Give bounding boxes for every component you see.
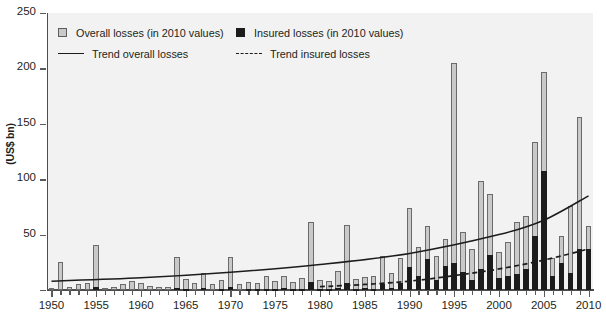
legend-dashed-line-icon [236,53,262,54]
x-tick-mark [383,290,384,295]
bar-overall-losses [111,287,117,290]
bar-insured-losses [487,255,493,290]
x-tick-label: 1980 [298,299,342,311]
bar-overall-losses [237,284,243,290]
bar-overall-losses [76,284,82,290]
y-tick-mark [40,13,46,14]
y-tick-label: 100 [0,171,36,183]
bar-insured-losses [451,263,457,290]
x-tick-mark [159,290,160,295]
x-tick-mark [141,290,142,297]
bar-overall-losses [147,286,153,290]
x-tick-mark [105,290,106,295]
bar-overall-losses [85,283,91,290]
legend-item-trend-insured: Trend insured losses [236,48,370,60]
x-tick-mark [392,290,393,295]
x-tick-mark [132,290,133,295]
bar-overall-losses [308,222,314,290]
chart-legend: Overall losses (in 2010 values) Insured … [58,24,403,62]
bar-overall-losses [58,262,64,290]
x-tick-mark [472,290,473,295]
bar-insured-losses [532,236,538,290]
x-tick-mark [275,290,276,297]
bar-insured-losses [559,263,565,290]
legend-item-overall: Overall losses (in 2010 values) [58,27,236,39]
bar-insured-losses [550,276,556,290]
bar-insured-losses [416,276,422,290]
x-tick-mark [562,290,563,295]
bar-insured-losses [281,288,287,290]
bar-insured-losses [264,289,270,291]
bar-insured-losses [496,278,502,290]
y-tick-label: 200 [0,60,36,72]
bar-insured-losses [407,267,413,290]
legend-label-overall: Overall losses (in 2010 values) [76,27,224,39]
x-tick-mark [463,290,464,295]
y-tick-mark [40,290,46,291]
bar-insured-losses [362,288,368,290]
bar-insured-losses [443,266,449,290]
bar-overall-losses [210,284,216,290]
bar-insured-losses [434,280,440,290]
x-tick-mark [508,290,509,295]
x-tick-label: 1950 [29,299,73,311]
x-tick-mark [580,290,581,295]
bar-insured-losses [523,269,529,290]
x-tick-mark [150,290,151,295]
x-tick-mark [51,290,52,297]
y-tick-mark [40,124,46,125]
x-tick-mark [338,290,339,295]
bar-insured-losses [577,249,583,290]
bar-insured-losses [174,288,180,290]
x-tick-mark [239,290,240,295]
bar-overall-losses [371,276,377,290]
bar-insured-losses [317,289,323,291]
bar-insured-losses [353,289,359,291]
x-tick-label: 1990 [388,299,432,311]
bar-overall-losses [67,287,73,290]
x-tick-mark [230,290,231,297]
bar-overall-losses [174,257,180,290]
x-tick-mark [553,290,554,295]
x-tick-mark [87,290,88,295]
bar-insured-losses [299,289,305,291]
x-tick-mark [195,290,196,295]
y-tick-mark [40,235,46,236]
legend-item-trend-overall: Trend overall losses [58,48,236,60]
bar-overall-losses [102,288,108,290]
bar-overall-losses [451,63,457,290]
x-tick-mark [204,290,205,295]
x-tick-mark [177,290,178,295]
x-tick-mark [418,290,419,295]
x-tick-mark [445,290,446,295]
bar-overall-losses [49,288,55,290]
x-tick-mark [571,290,572,295]
x-tick-mark [69,290,70,295]
legend-swatch-overall-icon [58,28,67,37]
x-tick-mark [96,290,97,297]
y-tick-label: 250 [0,5,36,17]
x-tick-mark [490,290,491,295]
y-tick-mark [40,179,46,180]
x-tick-mark [517,290,518,295]
x-tick-mark [526,290,527,295]
x-tick-mark [320,290,321,297]
bar-insured-losses [478,269,484,290]
legend-label-trend-overall: Trend overall losses [92,48,188,60]
x-tick-mark [427,290,428,295]
bar-insured-losses [272,289,278,291]
x-tick-mark [347,290,348,295]
x-tick-mark [544,290,545,297]
bar-insured-losses [398,283,404,290]
bar-overall-losses [344,225,350,290]
bar-insured-losses [255,289,261,291]
bar-overall-losses [120,284,126,290]
bar-insured-losses [308,282,314,290]
bar-insured-losses [380,284,386,290]
legend-solid-line-icon [58,53,84,54]
bar-insured-losses [586,249,592,290]
y-tick-mark [40,68,46,69]
bar-overall-losses [192,283,198,290]
x-tick-label: 1985 [343,299,387,311]
